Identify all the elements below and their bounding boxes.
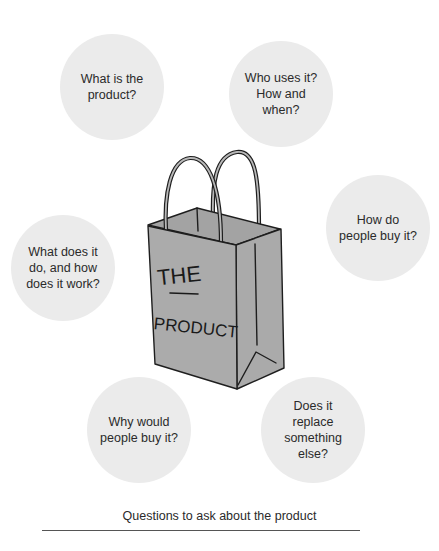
- bubble-text: What does it do, and how does it work?: [26, 244, 100, 292]
- bubble-who-uses-it: Who uses it? How and when?: [229, 41, 333, 147]
- bubble-text: How do people buy it?: [339, 212, 417, 244]
- bubble-how-people-buy: How do people buy it?: [326, 175, 430, 281]
- bubble-text: Why would people buy it?: [100, 414, 178, 446]
- bubble-what-is-product: What is the product?: [60, 34, 164, 140]
- figure-caption: Questions to ask about the product: [0, 509, 439, 523]
- bubble-text: Does it replace something else?: [284, 398, 342, 462]
- bubble-text: Who uses it? How and when?: [245, 70, 317, 118]
- caption-rule-divider: [42, 530, 360, 531]
- bubble-what-does-it-do: What does it do, and how does it work?: [11, 215, 115, 321]
- bubble-text: What is the product?: [81, 71, 144, 103]
- bag-label-the: THE: [156, 261, 202, 290]
- shopping-bag-icon: THE PRODUCT: [130, 140, 300, 400]
